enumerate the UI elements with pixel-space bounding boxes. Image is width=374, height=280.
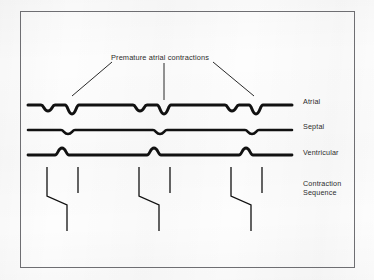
waveform-canvas [0,0,374,280]
trace-septal [28,130,292,134]
ecg-traces [28,105,292,155]
trace-label-ventricular: Ventricular [303,148,339,157]
leader-right [213,62,254,96]
trace-atrial [28,105,292,114]
group-3-conduction-line [231,167,251,231]
premature-atrial-contractions-label: Premature atrial contractions [111,53,209,62]
figure-root: Premature atrial contractions Atrial Sep… [0,0,374,280]
group-1-conduction-line [47,167,67,231]
trace-label-contraction-sequence: Contraction Sequence [303,179,341,198]
callout-leader-lines [72,62,254,100]
contraction-label-line2: Sequence [303,188,337,197]
group-2-conduction-line [139,167,159,231]
leader-left [72,62,112,96]
trace-label-atrial: Atrial [303,97,320,106]
contraction-sequence-lines [47,167,262,231]
trace-ventricular [28,148,292,155]
trace-label-septal: Septal [303,122,324,131]
contraction-label-line1: Contraction [303,179,341,188]
